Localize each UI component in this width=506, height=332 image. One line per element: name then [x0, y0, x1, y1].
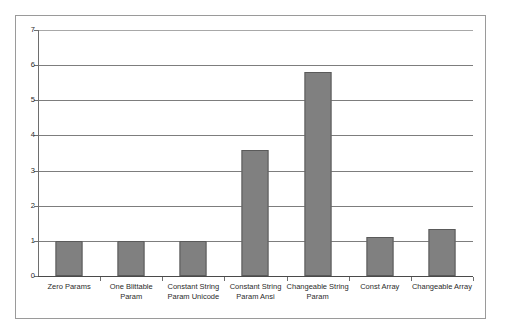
bar-slot — [224, 30, 286, 276]
y-tick-label-6: 6 — [19, 61, 35, 69]
bar[interactable] — [118, 241, 145, 276]
x-axis-label: Zero Params — [38, 282, 100, 292]
bar-slot — [287, 30, 349, 276]
bar-slot — [349, 30, 411, 276]
x-tick-mark — [349, 277, 350, 281]
bar[interactable] — [304, 72, 331, 276]
x-tick-mark — [473, 277, 474, 281]
x-tick-mark — [287, 277, 288, 281]
bar[interactable] — [428, 229, 455, 276]
bars-layer — [38, 30, 473, 276]
bar-slot — [38, 30, 100, 276]
y-tick-label-3: 3 — [19, 167, 35, 175]
bar-slot — [162, 30, 224, 276]
x-axis-label: One Blittable Param — [100, 282, 162, 302]
x-tick-mark — [100, 277, 101, 281]
y-tick-label-7: 7 — [19, 26, 35, 34]
x-axis-label: Constant String Param Unicode — [162, 282, 224, 302]
y-tick-label-0: 0 — [19, 272, 35, 280]
y-axis-tick-labels: 7 6 5 4 3 2 1 0 — [16, 0, 35, 332]
bar[interactable] — [180, 241, 207, 276]
bar-chart: 7 6 5 4 3 2 1 0 Zero ParamsOne Blittable… — [0, 0, 506, 332]
x-axis-label: Constant String Param Ansi — [224, 282, 286, 302]
y-tick-label-1: 1 — [19, 237, 35, 245]
bar-slot — [100, 30, 162, 276]
y-tick-label-4: 4 — [19, 131, 35, 139]
x-tick-mark — [411, 277, 412, 281]
bar-slot — [411, 30, 473, 276]
x-axis-category-labels: Zero ParamsOne Blittable ParamConstant S… — [38, 282, 473, 312]
bar[interactable] — [56, 241, 83, 276]
x-axis-label: Changeable Array — [411, 282, 473, 292]
y-tick-label-5: 5 — [19, 96, 35, 104]
x-tick-mark — [162, 277, 163, 281]
x-axis-label: Changeable String Param — [287, 282, 349, 302]
bar[interactable] — [242, 150, 269, 277]
x-axis-label: Const Array — [349, 282, 411, 292]
bar[interactable] — [366, 237, 393, 276]
y-tick-label-2: 2 — [19, 202, 35, 210]
x-tick-mark — [224, 277, 225, 281]
x-axis-line — [38, 276, 473, 277]
